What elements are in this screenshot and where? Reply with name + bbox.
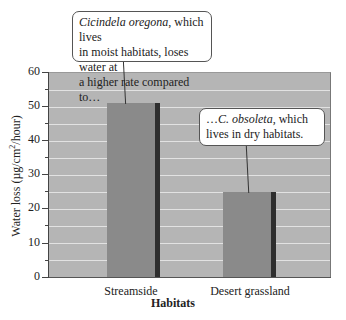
callout-text: , which bbox=[273, 112, 308, 126]
y-title-end: /hour) bbox=[9, 115, 23, 144]
callout-desert: …C. obsoleta, which lives in dry habitat… bbox=[199, 108, 325, 146]
callout-line: lives in dry habitats. bbox=[206, 127, 318, 142]
y-minor-tick bbox=[45, 123, 49, 124]
y-tick-label: 0 bbox=[16, 269, 40, 284]
ellipsis: … bbox=[206, 112, 218, 126]
y-title-sup: 2 bbox=[8, 145, 17, 149]
y-title-text: Water loss (µg/cm bbox=[9, 149, 23, 237]
y-tick bbox=[42, 174, 49, 175]
y-axis-title: Water loss (µg/cm2/hour) bbox=[8, 101, 24, 251]
gridline-10 bbox=[49, 243, 330, 244]
y-tick bbox=[42, 140, 49, 141]
y-minor-tick bbox=[45, 225, 49, 226]
y-tick bbox=[42, 72, 49, 73]
callout-line: a higher rate compared to… bbox=[79, 75, 205, 105]
y-tick bbox=[42, 243, 49, 244]
gridline-20 bbox=[49, 209, 330, 210]
callout-line: …C. obsoleta, which bbox=[206, 112, 318, 127]
y-minor-tick bbox=[45, 260, 49, 261]
bar-shadow bbox=[155, 103, 160, 277]
bar-desert-grassland bbox=[223, 192, 271, 277]
species-name: Cicindela oregona bbox=[79, 15, 168, 29]
gridline-35 bbox=[49, 158, 330, 159]
y-axis bbox=[48, 72, 49, 278]
bar-shadow bbox=[271, 192, 276, 277]
bar-streamside bbox=[107, 103, 155, 277]
y-tick-label: 60 bbox=[16, 64, 40, 79]
y-tick bbox=[42, 277, 49, 278]
gridline-15 bbox=[49, 226, 330, 227]
x-axis-title: Habitats bbox=[0, 296, 346, 311]
gridline-30 bbox=[49, 175, 330, 176]
callout-line: Cicindela oregona, which lives bbox=[79, 15, 205, 45]
species-name: C. obsoleta bbox=[218, 112, 273, 126]
gridline-25 bbox=[49, 192, 330, 193]
callout-line: in moist habitats, loses water at bbox=[79, 45, 205, 75]
y-tick bbox=[42, 106, 49, 107]
x-axis bbox=[48, 277, 331, 278]
y-minor-tick bbox=[45, 191, 49, 192]
y-tick bbox=[42, 208, 49, 209]
callout-streamside: Cicindela oregona, which lives in moist … bbox=[72, 11, 212, 62]
y-minor-tick bbox=[45, 157, 49, 158]
gridline-5 bbox=[49, 260, 330, 261]
y-minor-tick bbox=[45, 89, 49, 90]
